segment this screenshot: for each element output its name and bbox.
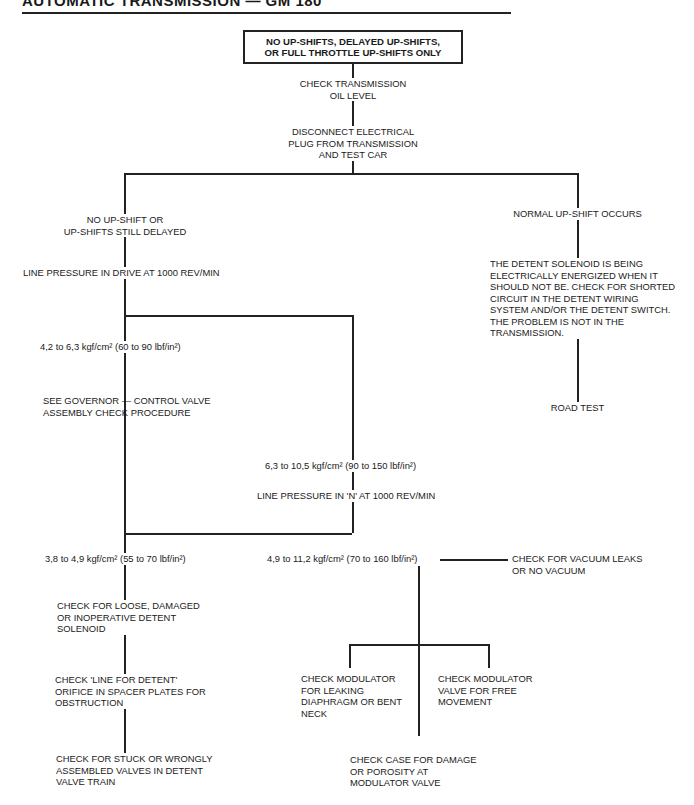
reading-high-drive: 6,3 to 10,5 kgf/cm² (90 to 150 lbf/in²) (265, 460, 416, 472)
page-header-title: AUTOMATIC TRANSMISSION — GM 180 (22, 0, 322, 9)
header-rule (22, 12, 511, 14)
check-line-for-detent: CHECK 'LINE FOR DETENT' ORIFICE IN SPACE… (55, 674, 206, 709)
left-result: NO UP-SHIFT OR UP-SHIFTS STILL DELAYED (60, 214, 190, 237)
check-detent-solenoid: CHECK FOR LOOSE, DAMAGED OR INOPERATIVE … (57, 600, 200, 635)
reading-branch-a: 3,8 to 4,9 kgf/cm² (55 to 70 lbf/in²) (45, 553, 186, 565)
check-modulator-valve: CHECK MODULATOR VALVE FOR FREE MOVEMENT (438, 673, 532, 708)
start-node: NO UP-SHIFTS, DELAYED UP-SHIFTS, OR FULL… (243, 30, 463, 64)
connector (124, 173, 578, 175)
connector (440, 559, 508, 561)
check-case-porosity: CHECK CASE FOR DAMAGE OR POROSITY AT MOD… (350, 754, 477, 789)
test-neutral-pressure: LINE PRESSURE IN 'N' AT 1000 REV/MIN (257, 490, 435, 502)
check-modulator-diaphragm: CHECK MODULATOR FOR LEAKING DIAPHRAGM OR… (301, 673, 402, 719)
connector (488, 644, 490, 668)
check-detent-valve-train: CHECK FOR STUCK OR WRONGLY ASSEMBLED VAL… (56, 753, 213, 788)
action-governor-check: SEE GOVERNOR — CONTROL VALVE ASSEMBLY CH… (43, 395, 211, 418)
right-road-test: ROAD TEST (540, 402, 615, 414)
reading-low-drive: 4,2 to 6,3 kgf/cm² (60 to 90 lbf/in²) (40, 341, 181, 353)
connector (124, 533, 126, 767)
connector (349, 644, 488, 646)
step-disconnect-plug: DISCONNECT ELECTRICAL PLUG FROM TRANSMIS… (283, 126, 423, 161)
reading-branch-b: 4,9 to 11,2 kgf/cm² (70 to 160 lbf/in²) (267, 553, 417, 565)
left-test-drive-pressure: LINE PRESSURE IN DRIVE AT 1000 REV/MIN (23, 267, 220, 279)
right-result: NORMAL UP-SHIFT OCCURS (510, 208, 645, 220)
connector (124, 315, 352, 317)
step-check-oil-level: CHECK TRANSMISSION OIL LEVEL (293, 78, 413, 101)
connector (418, 566, 420, 736)
right-diagnosis: THE DETENT SOLENOID IS BEING ELECTRICALL… (490, 258, 675, 339)
check-vacuum-leaks: CHECK FOR VACUUM LEAKS OR NO VACUUM (512, 553, 643, 576)
connector (124, 533, 352, 535)
start-node-label: NO UP-SHIFTS, DELAYED UP-SHIFTS, OR FULL… (265, 36, 442, 59)
connector (349, 644, 351, 668)
